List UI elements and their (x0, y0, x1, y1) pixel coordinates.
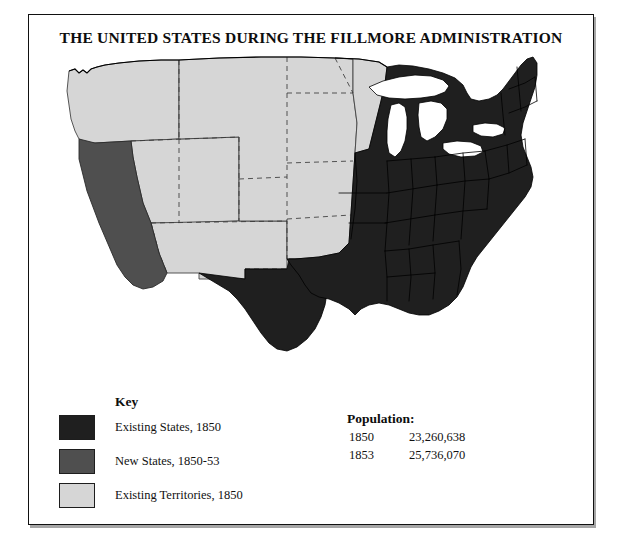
legend-item-territories: Existing Territories, 1850 (59, 479, 329, 513)
legend-label-territories: Existing Territories, 1850 (115, 488, 243, 503)
page-title: THE UNITED STATES DURING THE FILLMORE AD… (29, 29, 593, 47)
population-year-1850: 1850 (349, 430, 374, 445)
population-value-1850: 23,260,638 (409, 430, 465, 445)
legend-item-new-states: New States, 1850-53 (59, 445, 329, 479)
region-pacific-northwest-territory (67, 60, 179, 143)
legend-swatch-existing-states (59, 415, 95, 440)
population-row-1853: 1853 25,736,070 (347, 448, 547, 466)
population-value-1853: 25,736,070 (409, 448, 465, 463)
population-row-1850: 1850 23,260,638 (347, 430, 547, 448)
population-year-1853: 1853 (349, 448, 374, 463)
page-frame: THE UNITED STATES DURING THE FILLMORE AD… (28, 14, 594, 525)
map-page: THE UNITED STATES DURING THE FILLMORE AD… (0, 0, 624, 560)
legend-label-new-states: New States, 1850-53 (115, 454, 220, 469)
legend-swatch-territories (59, 483, 95, 508)
population-block: Population: 1850 23,260,638 1853 25,736,… (347, 411, 547, 466)
legend-label-existing-states: Existing States, 1850 (115, 420, 221, 435)
map-legend: Key Existing States, 1850 New States, 18… (59, 411, 329, 513)
legend-swatch-new-states (59, 449, 95, 474)
map-illustration (39, 53, 585, 393)
united-states-map-svg (39, 53, 585, 393)
legend-heading: Key (115, 394, 138, 410)
population-heading: Population: (347, 411, 547, 427)
region-utah-territory (131, 137, 239, 223)
legend-item-existing-states: Existing States, 1850 (59, 411, 329, 445)
